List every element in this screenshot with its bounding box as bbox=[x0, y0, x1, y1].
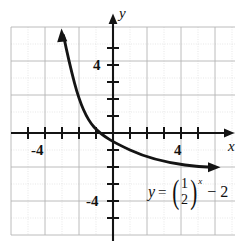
y-tick-label-neg4: -4 bbox=[86, 194, 99, 209]
y-tick-label-4: 4 bbox=[93, 58, 101, 73]
y-axis-label: y bbox=[119, 6, 126, 21]
x-tick-label-neg4: -4 bbox=[31, 143, 44, 158]
fraction-denominator: 2 bbox=[181, 192, 188, 208]
function-equation: y = ( 1 2 ) x − 2 bbox=[148, 176, 228, 208]
paren-close: ) bbox=[190, 179, 197, 206]
equation-lhs: y bbox=[148, 184, 155, 200]
equation-equals-sign: = bbox=[158, 185, 166, 200]
x-axis-label: x bbox=[228, 139, 235, 154]
graph-figure: y x -4 4 4 -4 y = ( 1 2 ) x − 2 bbox=[0, 0, 247, 241]
equation-exponent: x bbox=[198, 177, 202, 186]
equation-tail: − 2 bbox=[207, 184, 228, 200]
x-tick-label-4: 4 bbox=[174, 143, 182, 158]
fraction-numerator: 1 bbox=[181, 176, 188, 192]
fraction-one-half: 1 2 bbox=[181, 176, 188, 208]
paren-open: ( bbox=[172, 179, 179, 206]
equation-fraction-group: ( 1 2 ) x bbox=[170, 176, 203, 208]
